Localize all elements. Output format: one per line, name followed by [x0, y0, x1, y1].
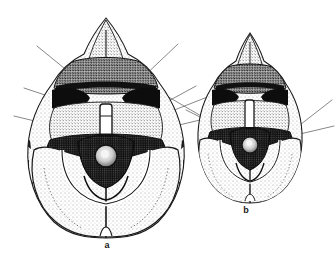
specimen-a-boss-highlight: [101, 150, 109, 158]
specimen-b-boss-highlight: [246, 140, 252, 146]
figure-label-b: b: [239, 206, 253, 215]
specimen-illustration: [0, 0, 336, 265]
specimen-a-median-keel: [100, 104, 112, 138]
figure-plate: [0, 0, 336, 265]
figure-label-a: a: [100, 241, 114, 250]
